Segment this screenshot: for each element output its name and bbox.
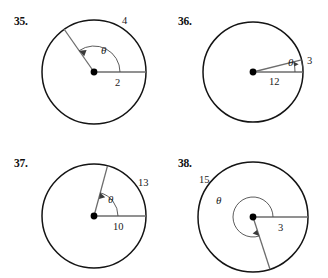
angle-arrow-head [294, 62, 299, 67]
problem-36-figure [164, 0, 328, 139]
problem-35-arc-label: 4 [122, 16, 127, 27]
problem-35-radius-label: 2 [115, 78, 120, 89]
problem-35-theta-label: θ [101, 45, 106, 56]
problem-36-theta-label: θ [288, 57, 293, 68]
problem-38-theta-label: θ [216, 195, 221, 206]
problem-37-arc-label: 13 [138, 178, 149, 189]
problem-35-figure [0, 0, 164, 139]
center-point [250, 214, 257, 221]
center-point [250, 69, 257, 76]
problem-37-radius-label: 10 [113, 222, 124, 233]
problem-38: 38. 15 3 θ [164, 139, 328, 278]
terminal-side-radius [94, 166, 108, 216]
problem-36: 36. 3 12 θ [164, 0, 328, 139]
problem-36-arc-label: 3 [307, 56, 312, 67]
problem-38-radius-label: 3 [278, 223, 283, 234]
exercise-sheet: 35. 4 2 θ 36. [0, 0, 328, 278]
problem-37-figure [0, 139, 164, 278]
problem-37-theta-label: θ [108, 194, 113, 205]
center-point [91, 69, 98, 76]
terminal-side-radius [253, 217, 270, 269]
problem-36-radius-label: 12 [269, 77, 280, 88]
problem-35: 35. 4 2 θ [0, 0, 164, 139]
problem-38-figure [164, 139, 328, 278]
problem-37: 37. 13 10 θ [0, 139, 164, 278]
center-point [91, 213, 98, 220]
problem-38-arc-label: 15 [199, 175, 210, 186]
